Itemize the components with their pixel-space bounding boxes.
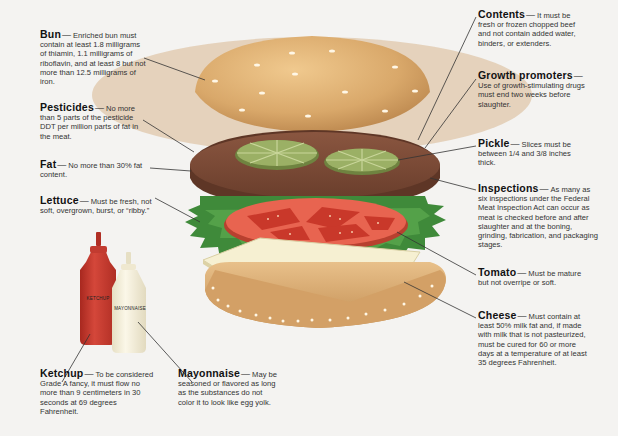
callout-text: As many as six inspections under the Fed… <box>478 185 598 249</box>
callout-bun: Bun—Enriched bun must contain at least 1… <box>40 30 148 86</box>
callout-term: Ketchup <box>40 367 83 379</box>
callout-inspections: Inspections—As many as six inspections u… <box>478 184 600 249</box>
callout-term: Pesticides <box>40 101 94 113</box>
callout-pickle: Pickle—Slices must be between 1/4 and 3/… <box>478 139 588 168</box>
callout-text: Enriched bun must contain at least 1.8 m… <box>40 31 146 86</box>
callout-term: Inspections <box>478 182 539 194</box>
callout-lettuce: Lettuce—Must be fresh, not soft, overgro… <box>40 196 152 215</box>
callout-term: Bun <box>40 28 61 40</box>
hamburger-diagram: KETCHUP MAYONNAISE Bun—Enriched bun must… <box>0 0 618 436</box>
callout-tomato: Tomato—Must be mature but not overripe o… <box>478 268 588 287</box>
callout-term: Lettuce <box>40 194 79 206</box>
callout-text: Must contain at least 50% milk fat and, … <box>478 312 587 367</box>
callout-term: Mayonnaise <box>178 367 240 379</box>
callout-term: Growth promoters <box>478 69 573 81</box>
callout-term: Fat <box>40 158 56 170</box>
patty <box>190 130 440 207</box>
callout-mayonnaise: Mayonnaise—May be seasoned or flavored a… <box>178 369 278 407</box>
ketchup-bottle-label: KETCHUP <box>84 296 112 301</box>
callout-growth-promoters: Growth promoters—Use of growth-stimulati… <box>478 71 588 109</box>
callout-contents: Contents—It must be fresh or frozen chop… <box>478 10 588 48</box>
ketchup-bottle <box>80 232 116 345</box>
callout-term: Cheese <box>478 309 517 321</box>
callout-ketchup: Ketchup—To be considered Grade A fancy, … <box>40 369 154 416</box>
callout-term: Contents <box>478 8 525 20</box>
bottom-bun <box>205 262 446 328</box>
mayonnaise-bottle <box>112 252 146 353</box>
callout-pesticides: Pesticides—No more than 5 parts of the p… <box>40 103 148 141</box>
callout-term: Pickle <box>478 137 510 149</box>
callout-text: Use of growth-stimulating drugs must end… <box>478 81 585 108</box>
callout-term: Tomato <box>478 266 516 278</box>
mayonnaise-bottle-label: MAYONNAISE <box>114 306 146 311</box>
callout-fat: Fat—No more than 30% fat content. <box>40 160 150 179</box>
callout-cheese: Cheese—Must contain at least 50% milk fa… <box>478 311 590 367</box>
